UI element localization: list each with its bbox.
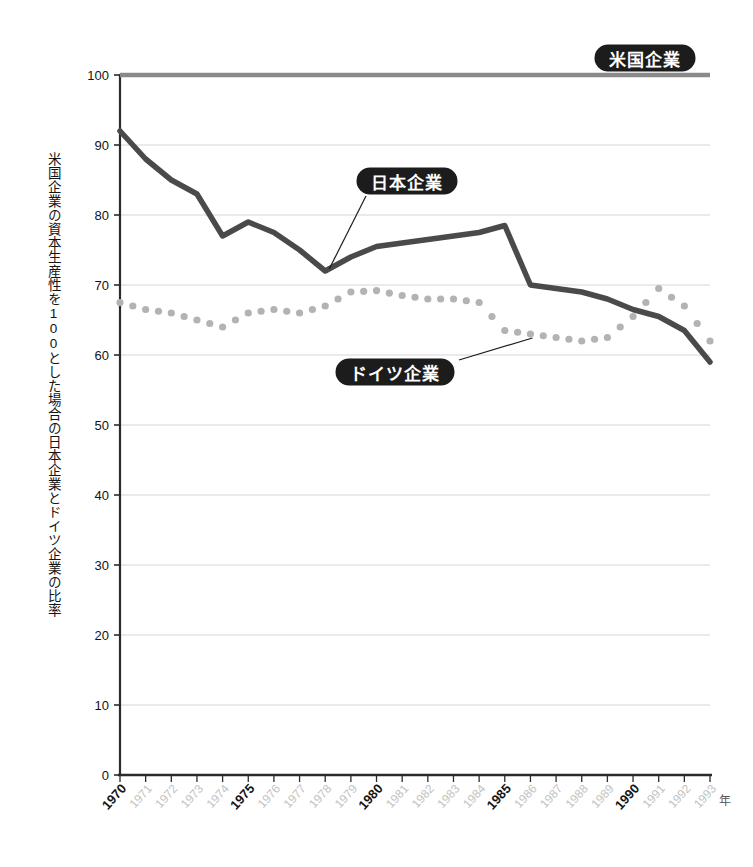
series-dot-germany [322,302,329,309]
y-axis-caption: 米国企業の資本生産性を100とした場合の日本企業とドイツ企業の比率 [38,152,60,617]
y-tick-label: 100 [87,68,109,83]
y-tick-labels: 0102030405060708090100 [87,68,109,783]
series-dot-germany [142,306,149,313]
line-chart-svg: 1970197119721973197419751976197719781979… [0,0,753,867]
series-dot-germany [386,289,393,296]
series-dot-germany [668,294,675,301]
x-tick-label-minor: 1987 [537,781,565,810]
y-tick-label: 20 [95,628,109,643]
leader-line-germany [459,338,532,360]
series-dot-germany [181,313,188,320]
gridlines [120,145,710,705]
series-dot-germany [270,306,277,313]
series-dot-germany [116,299,123,306]
series-dot-germany [706,337,713,344]
series-dot-germany [424,295,431,302]
series-dot-germany [296,309,303,316]
y-tick-label: 60 [95,348,109,363]
x-tick-label-minor: 1983 [434,781,462,810]
badge-us-companies: 米国企業 [595,45,695,71]
annotation-leader-lines [329,196,532,360]
x-tick-label-minor: 1991 [640,781,668,810]
y-tick-label: 90 [95,138,109,153]
x-tick-label-major: 1985 [484,781,514,813]
series-dot-germany [347,288,354,295]
x-tick-label-minor: 1981 [383,781,411,810]
series-dot-germany [334,295,341,302]
series-dot-germany [629,313,636,320]
series-dot-germany [309,306,316,313]
series-dot-germany [232,316,239,323]
series-dot-germany [617,323,624,330]
badge-germany-companies: ドイツ企業 [336,359,454,385]
series-dot-germany [694,320,701,327]
x-tick-labels: 1970197119721973197419751976197719781979… [99,781,720,813]
series-dot-germany [655,285,662,292]
x-tick-label-major: 1980 [355,781,385,813]
series-dot-germany [463,297,470,304]
series-lines [116,131,713,362]
series-dot-germany [206,320,213,327]
x-tick-label-minor: 1986 [511,781,539,810]
series-dot-germany [257,308,264,315]
series-dot-germany [437,295,444,302]
x-tick-label-minor: 1978 [306,781,334,810]
y-tick-label: 50 [95,418,109,433]
series-dot-germany [476,299,483,306]
x-tick-label-minor: 1989 [588,781,616,810]
y-tick-label: 10 [95,698,109,713]
x-tick-label-minor: 1971 [127,781,155,810]
x-tick-label-minor: 1973 [178,781,206,810]
x-axis [118,775,712,782]
series-dot-germany [604,334,611,341]
x-tick-label-minor: 1984 [460,781,488,810]
y-tick-label: 70 [95,278,109,293]
y-tick-label: 30 [95,558,109,573]
chart-container: 1970197119721973197419751976197719781979… [0,0,753,867]
series-dot-germany [411,294,418,301]
series-dot-germany [155,308,162,315]
series-dot-germany [399,292,406,299]
x-tick-label-minor: 1976 [255,781,283,810]
x-tick-label-minor: 1979 [332,781,360,810]
y-tick-label: 0 [102,768,109,783]
x-tick-label-minor: 1982 [409,781,437,810]
series-dot-germany [168,309,175,316]
x-tick-label-major: 1990 [612,781,642,813]
series-dot-germany [129,302,136,309]
series-dot-germany [283,308,290,315]
series-dot-germany [245,309,252,316]
series-dot-germany [565,336,572,343]
x-tick-label-major: 1970 [99,781,129,813]
series-dot-germany [488,313,495,320]
series-dot-germany [527,330,534,337]
series-dot-germany [193,316,200,323]
series-dot-germany [591,336,598,343]
y-axis [114,74,120,775]
series-dot-germany [578,337,585,344]
x-unit-label: 年 [719,794,731,808]
x-tick-label-minor: 1993 [691,781,719,810]
series-dot-germany [360,288,367,295]
x-tick-label-minor: 1977 [281,781,309,810]
x-tick-label-minor: 1992 [665,781,693,810]
x-unit-label: 年 [719,794,731,808]
series-dot-germany [642,299,649,306]
y-tick-label: 40 [95,488,109,503]
x-tick-label-minor: 1972 [152,781,180,810]
series-dot-germany [501,327,508,334]
y-tick-label: 80 [95,208,109,223]
x-tick-label-major: 1975 [227,781,257,813]
series-dot-germany [373,287,380,294]
series-dot-germany [681,302,688,309]
series-dot-germany [552,334,559,341]
x-tick-label-minor: 1974 [204,781,232,810]
series-dot-germany [514,329,521,336]
badge-japan-companies: 日本企業 [357,168,457,194]
series-dot-germany [450,295,457,302]
x-tick-label-minor: 1988 [563,781,591,810]
series-dot-germany [219,323,226,330]
series-dot-germany [540,332,547,339]
